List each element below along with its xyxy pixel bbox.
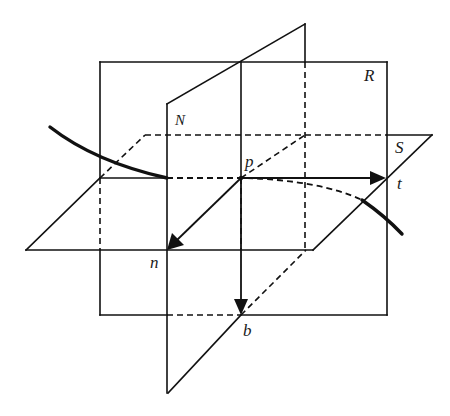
plane-n xyxy=(167,24,306,393)
label-vector-t: t xyxy=(397,174,403,193)
point-p-marker xyxy=(239,176,243,180)
label-plane-r: R xyxy=(363,66,375,85)
tangent-vector-t xyxy=(241,171,386,185)
frenet-frame-diagram: R N S p t n b xyxy=(0,0,450,416)
plane-s xyxy=(26,135,432,250)
space-curve xyxy=(50,127,402,234)
plane-r xyxy=(100,62,387,315)
label-plane-s: S xyxy=(395,138,404,157)
label-vector-b: b xyxy=(243,321,252,340)
label-vector-n: n xyxy=(150,253,159,272)
label-point-p: p xyxy=(244,152,254,171)
label-plane-n: N xyxy=(174,112,186,128)
binormal-vector-b xyxy=(234,178,248,315)
normal-vector-n xyxy=(167,178,241,250)
